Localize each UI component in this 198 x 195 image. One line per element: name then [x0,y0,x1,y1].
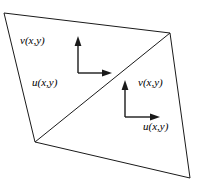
u-label-upper-left: u(x,y) [32,76,58,89]
v-arrowhead-lower [122,80,129,90]
diagram-canvas: v(x,y) u(x,y) v(x,y) u(x,y) [0,0,198,195]
v-arrowhead-upper [75,36,82,46]
axis-group-upper-left [75,36,112,76]
v-label-lower-right: v(x,y) [138,76,163,89]
u-arrowhead-upper [102,70,112,77]
v-label-upper-left: v(x,y) [20,34,45,47]
u-label-lower-right: u(x,y) [143,120,169,133]
quadrilateral-element-diagram: v(x,y) u(x,y) v(x,y) u(x,y) [0,0,198,195]
